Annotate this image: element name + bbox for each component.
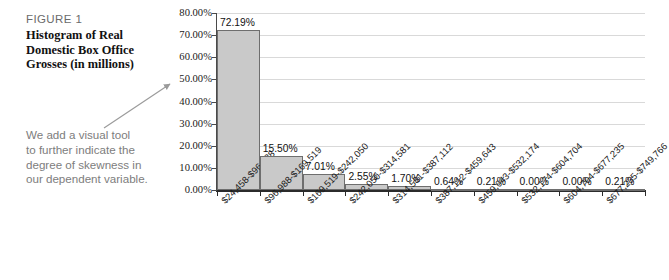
x-axis-tick-mark — [645, 191, 646, 196]
y-axis-tick-label: 50.00% — [166, 73, 212, 84]
bar-value-label: 72.19% — [220, 17, 255, 28]
gridline — [217, 35, 645, 36]
x-axis-tick-mark — [217, 191, 218, 196]
y-axis-labels: 80.00%70.00%60.00%50.00%40.00%30.00%20.0… — [160, 0, 212, 280]
x-axis-tick-mark — [517, 191, 518, 196]
x-axis-tick-mark — [431, 191, 432, 196]
y-axis-tick-label: 80.00% — [166, 7, 212, 18]
y-axis-tick-label: 20.00% — [166, 140, 212, 151]
x-axis-tick-mark — [474, 191, 475, 196]
x-axis-tick-mark — [388, 191, 389, 196]
gridline — [217, 57, 645, 58]
y-axis-tick-label: 60.00% — [166, 51, 212, 62]
y-axis-tick-label: 0.00% — [166, 184, 212, 195]
y-axis-tick-label: 10.00% — [166, 162, 212, 173]
y-axis-tick-mark — [212, 13, 217, 14]
x-axis-tick-mark — [559, 191, 560, 196]
gridline — [217, 13, 645, 14]
gridline — [217, 79, 645, 80]
y-axis-tick-label: 30.00% — [166, 118, 212, 129]
y-axis-tick-label: 70.00% — [166, 29, 212, 40]
x-axis-tick-mark — [303, 191, 304, 196]
x-axis-tick-mark — [602, 191, 603, 196]
x-axis-tick-mark — [260, 191, 261, 196]
bar-value-label: 15.50% — [263, 143, 298, 154]
x-axis-tick-mark — [345, 191, 346, 196]
gridline — [217, 102, 645, 103]
gridline — [217, 124, 645, 125]
y-axis-tick-label: 40.00% — [166, 96, 212, 107]
